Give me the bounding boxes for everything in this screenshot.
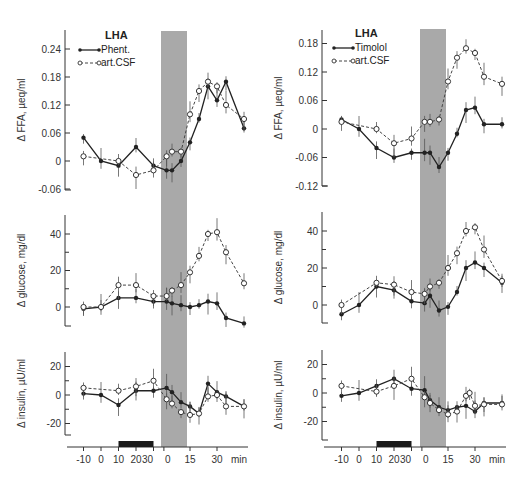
data-point [374,280,379,285]
x-tick-label: 0 [356,454,362,465]
data-point [409,299,413,303]
svg-text:Timolol: Timolol [355,42,387,53]
data-point [374,126,379,131]
data-point [463,228,468,233]
data-point [241,281,246,286]
y-tick-label: 40 [50,229,62,240]
plot-left-top: 0.240.180.120.060-0.06Δ FFA, µeq/ml [16,30,247,195]
data-point [116,403,120,407]
shaded-band-left [161,31,187,447]
data-point [151,168,156,173]
x-tick-label: 20 [130,454,142,465]
data-point [409,289,414,294]
data-point [170,168,174,172]
y-tick-label: 0.12 [42,100,62,111]
y-tick-label: 0 [55,156,61,167]
y-tick-label: 0.18 [42,72,62,83]
data-point [455,290,459,294]
data-point [170,390,174,394]
data-point [164,154,169,159]
x-axis-right: -10010203001530min [324,441,506,465]
svg-text:art.CSF: art.CSF [355,55,389,66]
y-tick-label: 0.06 [42,128,62,139]
data-point [134,296,138,300]
data-point [391,383,396,388]
shaded-band-right [420,29,446,447]
x-tick-label: 30 [469,454,481,465]
data-point [134,145,138,149]
data-point [164,386,168,390]
data-point [391,282,396,287]
data-point [464,266,468,270]
data-point [133,283,138,288]
data-point [241,116,246,121]
data-point [151,378,156,383]
left-title: LHA [105,29,128,41]
data-point [454,55,459,60]
data-point [428,294,432,298]
y-axis-label: Δ FFA, µeq/ml [16,78,27,141]
right-title: LHA [355,27,378,39]
x-axis-left: -10010203001530min [67,441,248,465]
data-point [472,225,477,230]
data-point [98,304,103,309]
data-point [427,400,432,405]
y-tick-label: -20 [47,418,62,429]
data-point [481,402,486,407]
data-point [437,165,441,169]
data-point [445,412,450,417]
y-tick-label: 20 [50,265,62,276]
y-tick-label: 0.12 [299,67,319,78]
data-point [472,50,477,55]
data-point [196,253,201,258]
data-point [178,149,183,154]
data-point [391,141,396,146]
data-point [196,88,201,93]
x-tick-label: -10 [334,454,349,465]
data-point [215,98,219,102]
plot-right-bottom: 200-20Δ insulin, µU/ml [273,350,505,440]
data-point [116,158,121,163]
data-point [179,159,183,163]
legend-right: Timolol art.CSF [332,42,389,66]
y-tick-label: 0 [55,390,61,401]
x-tick-label: 0 [165,454,171,465]
data-point [241,404,246,409]
data-point [409,136,414,141]
data-point [500,122,504,126]
legend-left: Phent. art.CSF [78,44,135,68]
data-point [214,230,219,235]
data-point [196,411,201,416]
x-tick-label: 0 [423,454,429,465]
data-point [464,404,468,408]
data-point [454,251,459,256]
data-point [422,151,426,155]
data-point [81,135,85,139]
data-point [436,117,441,122]
data-point [206,299,210,303]
y-tick-label: 0 [312,388,318,399]
y-tick-label: -20 [304,416,319,427]
y-tick-label: 0 [312,124,318,135]
plot-left-bottom: 200-20Δ insulin, µU/ml [16,352,247,435]
data-point [169,401,174,406]
data-point [116,388,121,393]
data-point [473,105,477,109]
x-tick-label: 30 [142,454,154,465]
data-point [436,280,441,285]
y-tick-label: 0.18 [299,38,319,49]
x-tick-label: 15 [184,454,196,465]
data-point [499,402,504,407]
data-point [178,283,183,288]
y-axis-label: Δ insulin, µU/ml [16,359,27,428]
data-point [81,385,86,390]
svg-text:art.CSF: art.CSF [101,57,135,68]
y-tick-label: 20 [307,263,319,274]
y-tick-label: 0.24 [42,44,62,55]
x-tick-label: 20 [388,454,400,465]
infusion-bar [377,441,412,447]
y-axis-label: Δ insulin, µU/ml [273,360,284,429]
plot-right-middle: 40200Δ glucose, mg/dl [273,212,505,323]
data-point [357,391,361,395]
data-point [482,122,486,126]
